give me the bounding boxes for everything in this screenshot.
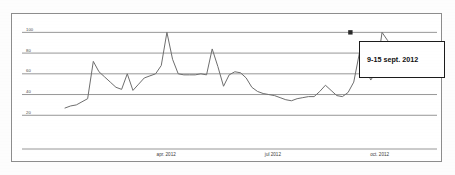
annotation-marker-group[interactable] <box>348 30 352 34</box>
tooltip-label: 9-15 sept. 2012 <box>360 55 418 64</box>
y-tick-label: 40 <box>26 90 31 94</box>
y-tick-label: 80 <box>26 49 31 53</box>
plot-area[interactable]: 10080604020 apr. 2012jul 2012oct. 2012 <box>12 14 443 163</box>
chart-canvas[interactable] <box>12 14 443 163</box>
y-tick-label: 20 <box>26 111 31 115</box>
screenshot-root: 10080604020 apr. 2012jul 2012oct. 2012 9… <box>0 0 455 175</box>
tooltip-callout[interactable]: 9-15 sept. 2012 <box>359 41 445 78</box>
chart-frame: 10080604020 apr. 2012jul 2012oct. 2012 9… <box>11 13 442 162</box>
highlighted-data-point-marker[interactable] <box>348 30 352 34</box>
x-tick-label: oct. 2012 <box>370 153 389 158</box>
y-tick-label: 100 <box>26 28 33 32</box>
x-tick-label: apr. 2012 <box>157 153 176 158</box>
y-tick-label: 60 <box>26 69 31 73</box>
x-tick-label: jul 2012 <box>265 153 281 158</box>
